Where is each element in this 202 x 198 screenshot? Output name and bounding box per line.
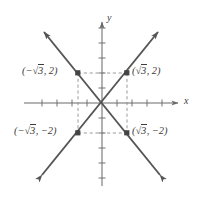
sqrt-icon: √3 xyxy=(32,65,43,76)
sqrt-icon: √3 xyxy=(135,65,146,76)
label-suffix: , 2) xyxy=(147,65,161,76)
y-axis-label: y xyxy=(107,12,111,23)
label-prefix: (− xyxy=(22,65,32,76)
label-suffix: , −2) xyxy=(36,125,57,136)
x-axis-label: x xyxy=(184,95,188,106)
figure-canvas xyxy=(0,0,202,198)
point-label-top-right: (√3, 2) xyxy=(132,65,160,76)
point-marker-bottom-right xyxy=(124,130,129,135)
label-suffix: , 2) xyxy=(44,65,58,76)
axes-group xyxy=(24,22,178,186)
point-marker-top-right xyxy=(124,70,129,75)
point-label-bottom-right: (√3, −2) xyxy=(132,125,167,136)
point-marker-top-left xyxy=(75,70,80,75)
point-marker-bottom-left xyxy=(75,130,80,135)
label-suffix: , −2) xyxy=(147,125,168,136)
sqrt-icon: √3 xyxy=(24,125,35,136)
label-prefix: (− xyxy=(14,125,24,136)
point-label-bottom-left: (−√3, −2) xyxy=(14,125,56,136)
coordinate-plane-figure: x y (−√3, 2) (√3, 2) (−√3, −2) (√3, −2) xyxy=(0,0,202,198)
point-label-top-left: (−√3, 2) xyxy=(22,65,57,76)
sqrt-icon: √3 xyxy=(135,125,146,136)
